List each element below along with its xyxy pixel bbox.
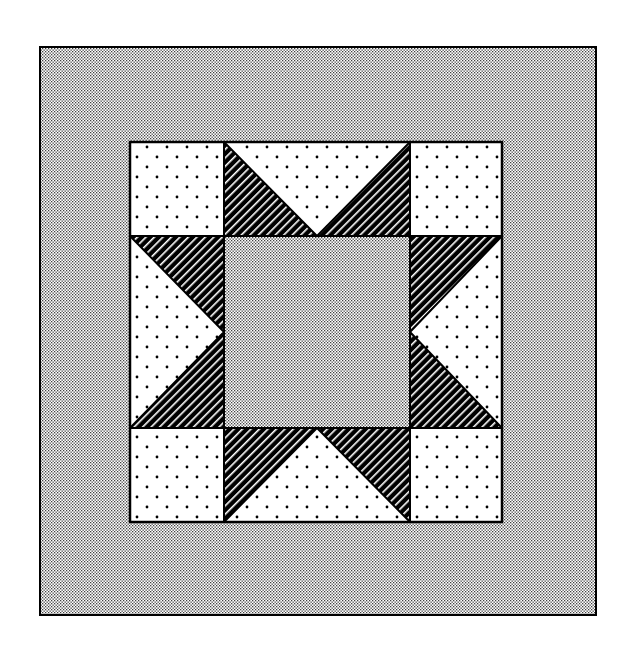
corner-top-right xyxy=(410,142,502,236)
corner-top-left xyxy=(130,142,224,236)
star-point-right xyxy=(410,236,502,428)
star-point-top xyxy=(224,142,410,236)
corner-bottom-left xyxy=(130,428,224,522)
star-point-left xyxy=(130,236,224,428)
center-square xyxy=(224,236,410,428)
corner-bottom-right xyxy=(410,428,502,522)
star-point-bottom xyxy=(224,428,410,522)
quilt-block xyxy=(130,142,502,522)
quilt-diagram xyxy=(0,0,635,650)
